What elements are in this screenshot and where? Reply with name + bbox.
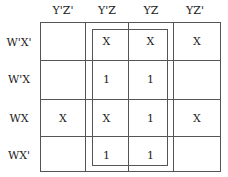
- kmap-cell: X: [41, 112, 85, 126]
- kmap-cell: X: [128, 35, 173, 49]
- kmap-cell: X: [85, 112, 128, 126]
- kmap-cell: X: [173, 35, 221, 49]
- kmap-grid: X X X 1 1 X X 1 X 1 1: [40, 22, 221, 172]
- kmap-cell: 1: [128, 149, 173, 163]
- row-header: W'X': [0, 36, 38, 49]
- kmap-cell: 1: [128, 112, 173, 126]
- kmap-cell: 1: [85, 73, 128, 87]
- group-outline: [92, 29, 168, 166]
- column-header: YZ': [175, 4, 215, 17]
- column-header: Y'Z: [87, 4, 127, 17]
- column-header: Y'Z': [43, 4, 83, 17]
- kmap-cell: 1: [128, 73, 173, 87]
- kmap-cell: X: [173, 112, 221, 126]
- column-header: YZ: [131, 4, 171, 17]
- kmap-cell: 1: [85, 149, 128, 163]
- row-header: W'X: [0, 73, 38, 86]
- row-header: WX: [0, 112, 38, 125]
- row-header: WX': [0, 149, 38, 162]
- kmap-cell: X: [85, 35, 128, 49]
